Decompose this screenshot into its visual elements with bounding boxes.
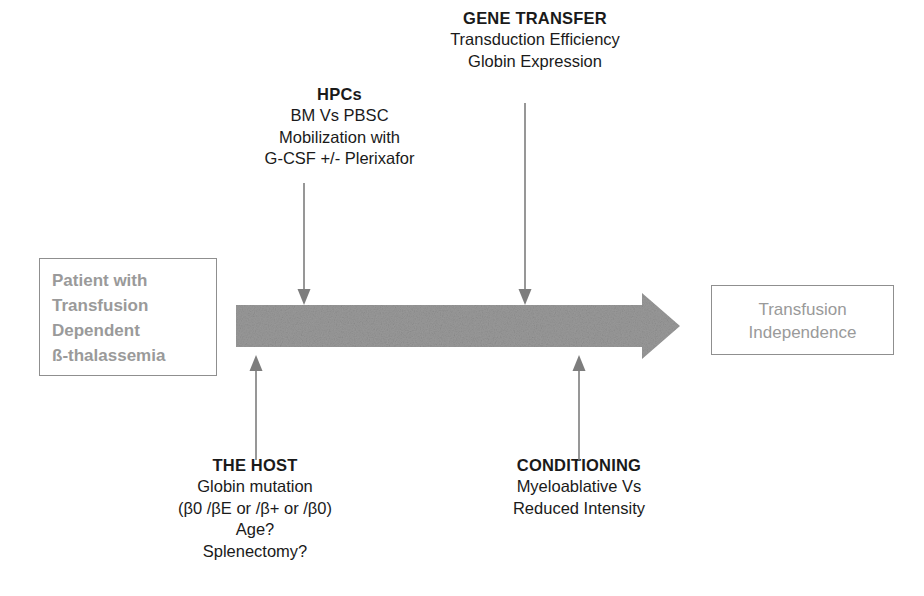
down-arrow-gene-transfer-icon: [512, 103, 538, 309]
up-arrow-conditioning-icon: [566, 352, 592, 460]
box-patient-line-3: Dependent: [52, 318, 216, 343]
box-independence-line-2: Independence: [712, 321, 893, 344]
box-patient-line-2: Transfusion: [52, 293, 216, 318]
box-independence-line-1: Transfusion: [712, 298, 893, 321]
annotation-gene-transfer-heading: GENE TRANSFER: [420, 8, 650, 29]
figure-canvas: GENE TRANSFER Transduction Efficiency Gl…: [0, 0, 924, 596]
annotation-the-host-line-2: (β0 /βE or /β+ or /β0): [130, 498, 380, 519]
annotation-hpcs-line-3: G-CSF +/- Plerixafor: [233, 148, 446, 169]
annotation-the-host-line-3: Age?: [130, 519, 380, 540]
annotation-gene-transfer-line-2: Globin Expression: [420, 51, 650, 72]
up-arrow-the-host-icon: [243, 352, 269, 460]
box-transfusion-independence: Transfusion Independence: [711, 285, 894, 355]
annotation-hpcs: HPCs BM Vs PBSC Mobilization with G-CSF …: [233, 84, 446, 170]
annotation-conditioning: CONDITIONING Myeloablative Vs Reduced In…: [455, 455, 703, 519]
annotation-conditioning-line-1: Myeloablative Vs: [455, 476, 703, 497]
down-arrow-hpcs-icon: [291, 183, 317, 309]
annotation-the-host-line-4: Splenectomy?: [130, 541, 380, 562]
box-patient-line-4: ß-thalassemia: [52, 343, 216, 368]
annotation-the-host: THE HOST Globin mutation (β0 /βE or /β+ …: [130, 455, 380, 562]
annotation-the-host-line-1: Globin mutation: [130, 476, 380, 497]
annotation-hpcs-line-1: BM Vs PBSC: [233, 105, 446, 126]
box-patient-line-1: Patient with: [52, 268, 216, 293]
annotation-hpcs-heading: HPCs: [233, 84, 446, 105]
box-patient-with-transfusion-dependent-thalassemia: Patient with Transfusion Dependent ß-tha…: [39, 258, 217, 376]
annotation-gene-transfer: GENE TRANSFER Transduction Efficiency Gl…: [420, 8, 650, 72]
annotation-hpcs-line-2: Mobilization with: [233, 127, 446, 148]
annotation-gene-transfer-line-1: Transduction Efficiency: [420, 29, 650, 50]
annotation-conditioning-line-2: Reduced Intensity: [455, 498, 703, 519]
